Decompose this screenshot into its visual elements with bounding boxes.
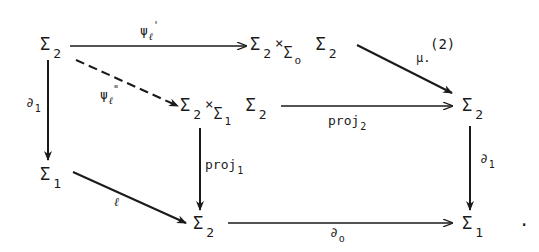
node-bottom-mid: Σ2 <box>193 215 214 232</box>
node-top-product: Σ2×Σo Σ2 <box>250 36 337 53</box>
label-partial1-left: ∂1 <box>26 96 41 109</box>
node-left-mid: Σ1 <box>40 166 61 183</box>
trailing-period: . <box>519 212 529 229</box>
label-proj1: proj1 <box>205 158 243 171</box>
arrow-ell <box>73 172 186 223</box>
label-proj2: proj2 <box>328 114 366 127</box>
node-mid-product: Σ2×Σ1 Σ2 <box>180 97 267 114</box>
node-bottom-right: Σ1 <box>462 215 483 232</box>
arrow-psi-double-prime <box>76 60 178 106</box>
node-mid-right: Σ2 <box>462 97 483 114</box>
label-partial0: ∂o <box>330 226 345 239</box>
label-mu: μ. <box>416 52 430 64</box>
label-mu-sup: (2) <box>430 37 455 51</box>
label-ell: ℓ <box>114 196 119 208</box>
label-psi-double-prime: ψℓ" <box>100 88 119 101</box>
node-top-left: Σ2 <box>40 36 61 53</box>
label-psi-prime: ψℓ' <box>140 24 159 37</box>
label-partial1-right: ∂1 <box>480 152 495 165</box>
arrow-mu <box>357 45 452 93</box>
